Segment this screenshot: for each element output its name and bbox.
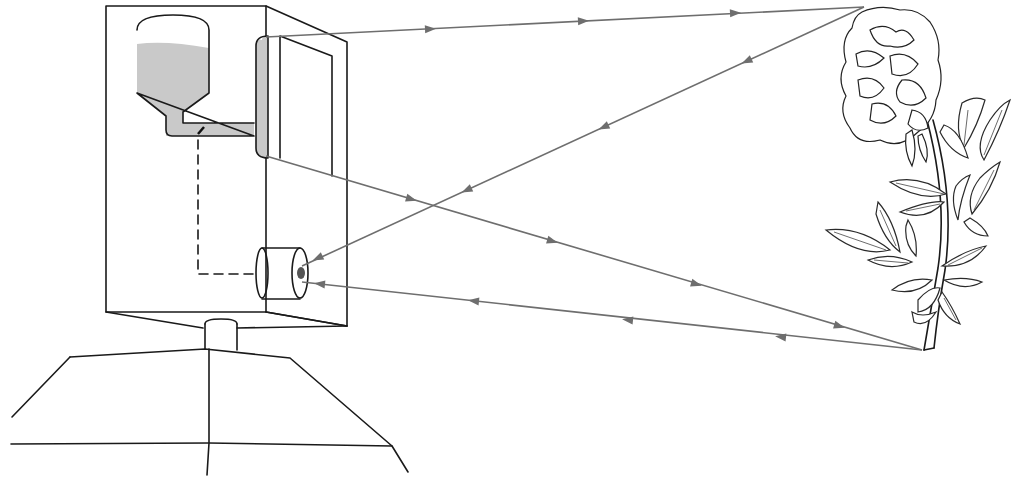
control-linkage — [198, 140, 257, 274]
eyepiece — [256, 248, 308, 299]
reservoir — [137, 15, 254, 136]
stand — [11, 319, 408, 475]
light-rays — [266, 7, 922, 350]
lens-panel — [256, 36, 332, 176]
flower — [826, 7, 1010, 350]
diagram-canvas — [0, 0, 1022, 490]
